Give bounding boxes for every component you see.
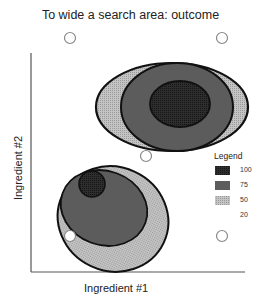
sample-point-top-right xyxy=(217,33,228,44)
contour-100-lower xyxy=(79,171,105,197)
sample-point-bottom-right xyxy=(217,231,228,242)
sample-point-bottom-left xyxy=(65,231,76,242)
legend-title: Legend xyxy=(214,151,242,161)
sample-point-top-left xyxy=(65,33,76,44)
legend-label-100: 100 xyxy=(240,166,252,173)
legend-swatch-75 xyxy=(215,181,230,190)
legend-swatch-100 xyxy=(215,166,230,175)
legend-label-75: 75 xyxy=(240,181,248,188)
legend-label-20: 20 xyxy=(240,211,248,218)
contour-region-lower xyxy=(40,148,185,290)
contour-region-upper xyxy=(96,63,248,151)
legend-label-50: 50 xyxy=(240,196,248,203)
sample-point-center xyxy=(141,151,152,162)
contour-100-upper xyxy=(150,81,210,127)
y-axis-label: Ingredient #2 xyxy=(12,136,24,200)
legend-swatches xyxy=(215,166,230,205)
x-axis-label: Ingredient #1 xyxy=(84,282,148,294)
legend-swatch-50 xyxy=(215,196,230,205)
